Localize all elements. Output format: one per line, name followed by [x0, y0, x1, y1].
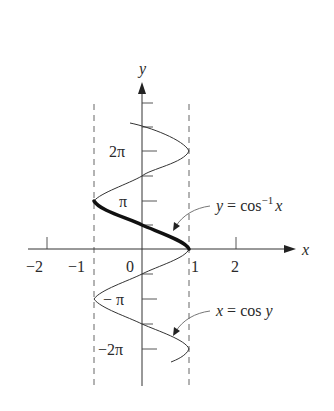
y-tick-label-neg2pi: −2π — [98, 341, 123, 358]
arccos-leader-arrow — [176, 206, 210, 226]
x-tick-label-2: 2 — [231, 258, 239, 275]
cos-arrowhead-icon — [173, 327, 180, 336]
y-axis-arrow-icon — [138, 82, 146, 94]
x-tick-label-0: 0 — [126, 258, 134, 275]
arccos-arrowhead-icon — [173, 222, 180, 231]
cos-leader-arrow — [176, 311, 210, 331]
y-tick-label-pi: π — [119, 193, 127, 210]
x-tick-label-neg2: −2 — [26, 258, 43, 275]
x-tick-label-neg1: −1 — [68, 258, 85, 275]
y-axis-label: y — [137, 60, 147, 78]
x-axis-label: x — [301, 241, 309, 258]
x-axis-arrow-icon — [284, 245, 296, 253]
arccos-diagram: y x −2 −1 0 1 2 2π π − π −2π y = cos−1x … — [0, 0, 334, 411]
x-tick-label-1: 1 — [191, 258, 199, 275]
annotation-cos: x = cos y — [215, 302, 273, 320]
annotation-arccos: y = cos−1x — [214, 194, 282, 215]
y-tick-label-2pi: 2π — [109, 143, 125, 160]
y-tick-label-negpi: − π — [103, 291, 124, 308]
